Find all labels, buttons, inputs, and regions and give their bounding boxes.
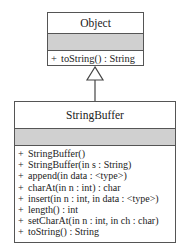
signature: StringBuffer(in s : String) — [28, 159, 131, 170]
signature: charAt(in n : int) : char — [28, 182, 120, 193]
signature: setCharAt(in n : int, in ch : char) — [28, 215, 159, 226]
operation: +StringBuffer() — [18, 148, 172, 159]
class-name: StringBuffer — [15, 102, 175, 128]
operations-compartment: +StringBuffer() +StringBuffer(in s : Str… — [15, 146, 175, 238]
operation: +toString() : String — [18, 226, 172, 237]
visibility: + — [18, 148, 28, 159]
visibility: + — [18, 182, 28, 193]
signature: toString() : String — [28, 226, 99, 237]
class-name: Object — [48, 13, 143, 33]
attributes-compartment — [15, 128, 175, 146]
visibility: + — [51, 52, 61, 65]
visibility: + — [18, 215, 28, 226]
visibility: + — [18, 159, 28, 170]
visibility: + — [18, 204, 28, 215]
operation: +insert(in n : int, in data : <type>) — [18, 193, 172, 204]
operations-compartment: +toString() : String — [48, 51, 143, 65]
operation: +charAt(in n : int) : char — [18, 182, 172, 193]
generalization-triangle-icon — [87, 67, 103, 80]
signature: StringBuffer() — [28, 148, 85, 159]
class-object: Object +toString() : String — [47, 12, 144, 66]
visibility: + — [18, 193, 28, 204]
visibility: + — [18, 170, 28, 181]
attributes-compartment — [48, 33, 143, 51]
operation: +length() : int — [18, 204, 172, 215]
signature: append(in data : <type>) — [28, 170, 127, 181]
signature: length() : int — [28, 204, 78, 215]
operation: +append(in data : <type>) — [18, 170, 172, 181]
signature: insert(in n : int, in data : <type>) — [28, 193, 159, 204]
operation: +setCharAt(in n : int, in ch : char) — [18, 215, 172, 226]
operation: +StringBuffer(in s : String) — [18, 159, 172, 170]
signature: toString() : String — [61, 53, 135, 64]
class-stringbuffer: StringBuffer +StringBuffer() +StringBuff… — [14, 101, 176, 243]
visibility: + — [18, 226, 28, 237]
operation: +toString() : String — [51, 52, 140, 65]
